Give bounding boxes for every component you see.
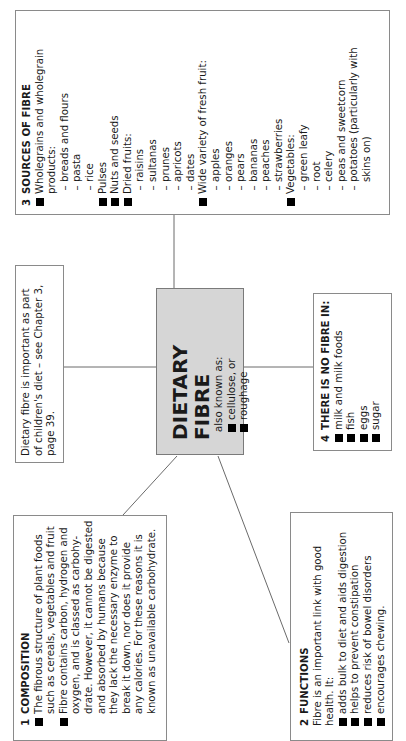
sources-heading: 3SOURCES OF FIBRE	[21, 11, 34, 206]
functions-box: 2FUNCTIONS Fibre is an important link wi…	[290, 512, 393, 741]
composition-heading: 1COMPOSITION	[20, 516, 33, 726]
bullet-icon	[111, 198, 119, 206]
note-box: Dietary fibre is important as part of ch…	[15, 265, 64, 463]
bullet-icon	[377, 718, 385, 726]
bullet-icon	[240, 424, 248, 432]
bullet-icon	[339, 718, 347, 726]
sources-box: 3SOURCES OF FIBRE Wholegrains and wholeg…	[15, 10, 390, 215]
bullet-icon	[351, 718, 359, 726]
bullet-icon	[35, 718, 43, 726]
connector-functions	[218, 456, 289, 643]
bullet-icon	[287, 198, 295, 206]
bullet-icon	[60, 718, 68, 726]
no-fibre-heading: 4THERE IS NO FIBRE IN:	[320, 294, 333, 442]
center-title: DIETARY FIBRE	[169, 289, 213, 440]
bullet-icon	[199, 198, 207, 206]
bullet-icon	[228, 424, 236, 432]
bullet-icon	[347, 434, 355, 442]
bullet-icon	[124, 198, 132, 206]
connector-composition	[123, 456, 177, 515]
bullet-icon	[364, 718, 372, 726]
composition-box: 1COMPOSITION The fibrous structure of pl…	[13, 515, 167, 741]
dietary-fibre-center-box: DIETARY FIBRE also known as: cellulose, …	[156, 288, 244, 455]
bullet-icon	[36, 198, 44, 206]
center-subtitle: also known as:	[213, 289, 226, 440]
bullet-icon	[372, 434, 380, 442]
functions-heading: 2FUNCTIONS	[299, 513, 312, 726]
bullet-icon	[335, 434, 343, 442]
bullet-icon	[360, 434, 368, 442]
no-fibre-box: 4THERE IS NO FIBRE IN: milk and milk foo…	[313, 293, 392, 451]
bullet-icon	[99, 198, 107, 206]
